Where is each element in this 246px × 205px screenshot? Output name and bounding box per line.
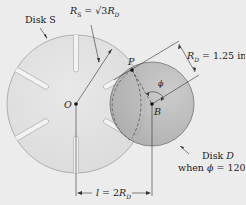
diagram-canvas <box>0 0 245 205</box>
disk-d-text: Disk <box>202 150 226 161</box>
l-equals: = 2 <box>99 187 119 198</box>
phi-value: = 120° <box>214 162 246 173</box>
label-p: P <box>128 57 134 67</box>
when-text: when <box>178 162 207 173</box>
l-r-subscript: D <box>126 193 131 200</box>
label-disk-d-condition: when ϕ = 120° <box>178 163 245 173</box>
rs-rd-symbol: R <box>107 5 114 16</box>
label-b: B <box>154 107 161 117</box>
label-o: O <box>64 100 72 110</box>
point-o <box>74 102 78 106</box>
rs-equals: = √3 <box>81 5 107 16</box>
label-distance-l: l = 2RD <box>96 188 131 200</box>
disk-d-symbol: D <box>226 150 234 161</box>
label-rd-value: RD = 1.25 in. <box>187 51 245 63</box>
label-disk-s-text: Disk S <box>25 14 56 25</box>
rs-rd-subscript: D <box>115 11 120 18</box>
label-phi: ϕ <box>158 80 163 88</box>
geneva-mechanism-diagram: Disk S RS = √3RD RD = 1.25 in. P O B ϕ D… <box>0 0 245 205</box>
rd-value-text: = 1.25 in. <box>199 50 245 61</box>
label-disk-s: Disk S <box>25 15 56 25</box>
point-p <box>130 68 134 72</box>
label-rs-formula: RS = √3RD <box>70 6 119 18</box>
label-disk-d: Disk D <box>202 151 234 161</box>
